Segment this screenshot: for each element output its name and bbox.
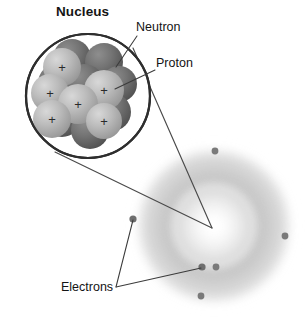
proton: + [86, 103, 122, 139]
proton-charge-symbol: + [74, 97, 82, 112]
electron-cloud-inner-haze [170, 182, 258, 270]
proton-charge-symbol: + [100, 114, 108, 129]
atom-diagram: + + + + + + [0, 0, 305, 321]
proton-label: Proton [156, 57, 193, 70]
electron-cloud [132, 144, 296, 308]
electron-dot [198, 293, 205, 300]
electrons-label: Electrons [61, 281, 113, 294]
atom-diagram-canvas: + + + + + + [0, 0, 305, 321]
proton-charge-symbol: + [58, 60, 66, 75]
electron-dot [282, 233, 289, 240]
neutron-label: Neutron [136, 21, 180, 34]
nucleus-label: Nucleus [56, 5, 109, 19]
proton-charge-symbol: + [100, 83, 108, 98]
electron-dot [213, 264, 220, 271]
electrons-leader-line-upper [116, 220, 133, 287]
electron-dot [198, 263, 205, 270]
proton-charge-symbol: + [48, 112, 56, 127]
electron-dot [212, 148, 219, 155]
proton-charge-symbol: + [46, 86, 54, 101]
